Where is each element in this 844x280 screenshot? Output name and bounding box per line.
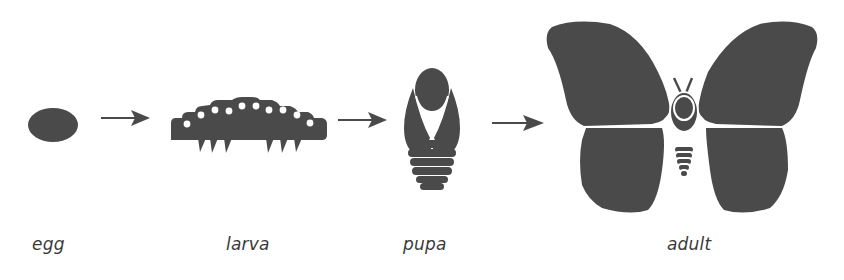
stage-label-pupa: pupa	[403, 234, 447, 254]
egg-illustration	[28, 108, 78, 142]
arrow-pupa-to-adult-icon	[492, 115, 544, 131]
pupa-illustration	[404, 68, 460, 190]
larva-illustration	[171, 97, 327, 153]
stage-label-adult: adult	[667, 234, 711, 254]
adult-butterfly-illustration	[547, 22, 818, 213]
stage-label-larva: larva	[226, 234, 270, 254]
arrow-egg-to-larva-icon	[101, 110, 150, 126]
arrow-larva-to-pupa-icon	[338, 112, 387, 128]
stage-label-egg: egg	[32, 234, 65, 254]
